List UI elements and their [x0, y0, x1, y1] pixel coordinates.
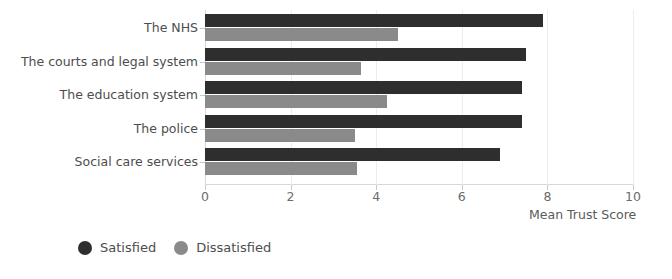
legend-item-label: Satisfied — [100, 240, 156, 255]
category-label: Social care services — [3, 155, 198, 169]
x-tick-label: 10 — [625, 189, 641, 204]
bar-group — [205, 115, 633, 143]
filled-circle-icon — [174, 241, 188, 255]
x-axis-title: Mean Trust Score — [529, 207, 636, 222]
y-tick-mark — [200, 95, 205, 96]
bar-satisfied[interactable] — [205, 14, 543, 27]
category-label: The police — [3, 122, 198, 136]
bar-satisfied[interactable] — [205, 48, 526, 61]
y-tick-mark — [200, 129, 205, 130]
plot-area — [205, 10, 633, 185]
filled-circle-icon — [78, 241, 92, 255]
bar-dissatisfied[interactable] — [205, 62, 361, 75]
y-tick-mark — [200, 28, 205, 29]
x-tick-label: 0 — [201, 189, 209, 204]
x-tick-label: 6 — [458, 189, 466, 204]
bar-satisfied[interactable] — [205, 148, 500, 161]
x-axis-line — [205, 184, 633, 185]
x-tick-label: 4 — [372, 189, 380, 204]
bar-group — [205, 81, 633, 109]
chart-legend: Satisfied Dissatisfied — [78, 240, 271, 255]
bar-dissatisfied[interactable] — [205, 162, 357, 175]
category-label: The courts and legal system — [3, 55, 198, 69]
bar-dissatisfied[interactable] — [205, 129, 355, 142]
trust-score-bar-chart: The NHSThe courts and legal systemThe ed… — [0, 0, 672, 279]
x-tick-label: 2 — [287, 189, 295, 204]
legend-item-label: Dissatisfied — [196, 240, 271, 255]
bar-dissatisfied[interactable] — [205, 28, 398, 41]
bar-group — [205, 48, 633, 76]
bar-satisfied[interactable] — [205, 115, 522, 128]
category-label: The NHS — [3, 21, 198, 35]
bar-satisfied[interactable] — [205, 81, 522, 94]
legend-item-satisfied[interactable]: Satisfied — [78, 240, 156, 255]
bar-group — [205, 148, 633, 176]
bar-group — [205, 14, 633, 42]
x-gridline — [633, 10, 634, 185]
category-label: The education system — [3, 88, 198, 102]
legend-item-dissatisfied[interactable]: Dissatisfied — [174, 240, 271, 255]
y-axis-category-labels: The NHSThe courts and legal systemThe ed… — [0, 10, 198, 185]
y-tick-mark — [200, 62, 205, 63]
bar-dissatisfied[interactable] — [205, 95, 387, 108]
x-tick-label: 8 — [543, 189, 551, 204]
y-tick-mark — [200, 162, 205, 163]
